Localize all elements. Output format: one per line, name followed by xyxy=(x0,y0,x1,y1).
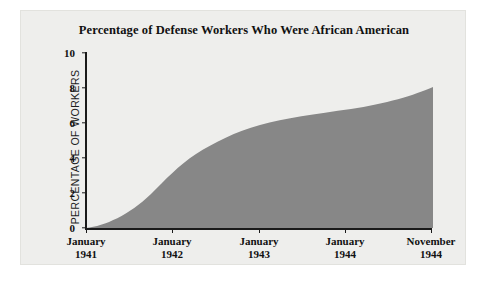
x-tick-label-3-line2: 1944 xyxy=(300,248,390,261)
y-tick-label-10: 10 xyxy=(35,47,75,59)
y-tick-label-6: 6 xyxy=(35,117,75,129)
x-tick-label-4-line1: November xyxy=(386,235,476,248)
x-tick-label-3: January 1944 xyxy=(300,235,390,260)
x-tick-label-0: January 1941 xyxy=(41,235,131,260)
chart-title: Percentage of Defense Workers Who Were A… xyxy=(21,23,467,38)
x-tick-label-4-line2: 1944 xyxy=(386,248,476,261)
y-tick-label-8: 8 xyxy=(35,82,75,94)
x-tick-label-3-line1: January xyxy=(300,235,390,248)
x-tick-mark-2 xyxy=(259,229,260,233)
x-tick-label-1-line1: January xyxy=(127,235,217,248)
x-tick-label-2-line2: 1943 xyxy=(214,248,304,261)
y-tick-label-2: 2 xyxy=(35,187,75,199)
x-tick-label-2: January 1943 xyxy=(214,235,304,260)
x-tick-mark-0 xyxy=(86,229,87,233)
x-tick-label-1-line2: 1942 xyxy=(127,248,217,261)
chart-panel: Percentage of Defense Workers Who Were A… xyxy=(20,10,466,265)
x-tick-label-0-line1: January xyxy=(41,235,131,248)
x-tick-mark-4 xyxy=(431,229,432,233)
x-tick-label-2-line1: January xyxy=(214,235,304,248)
area-fill xyxy=(86,87,433,228)
x-tick-label-4: November 1944 xyxy=(386,235,476,260)
x-tick-label-0-line2: 1941 xyxy=(41,248,131,261)
x-tick-label-1: January 1942 xyxy=(127,235,217,260)
y-tick-label-4: 4 xyxy=(35,152,75,164)
y-tick-label-0: 0 xyxy=(35,222,75,234)
x-tick-mark-1 xyxy=(172,229,173,233)
x-tick-mark-3 xyxy=(345,229,346,233)
area-series xyxy=(85,52,433,230)
chart-figure: Percentage of Defense Workers Who Were A… xyxy=(0,0,488,281)
